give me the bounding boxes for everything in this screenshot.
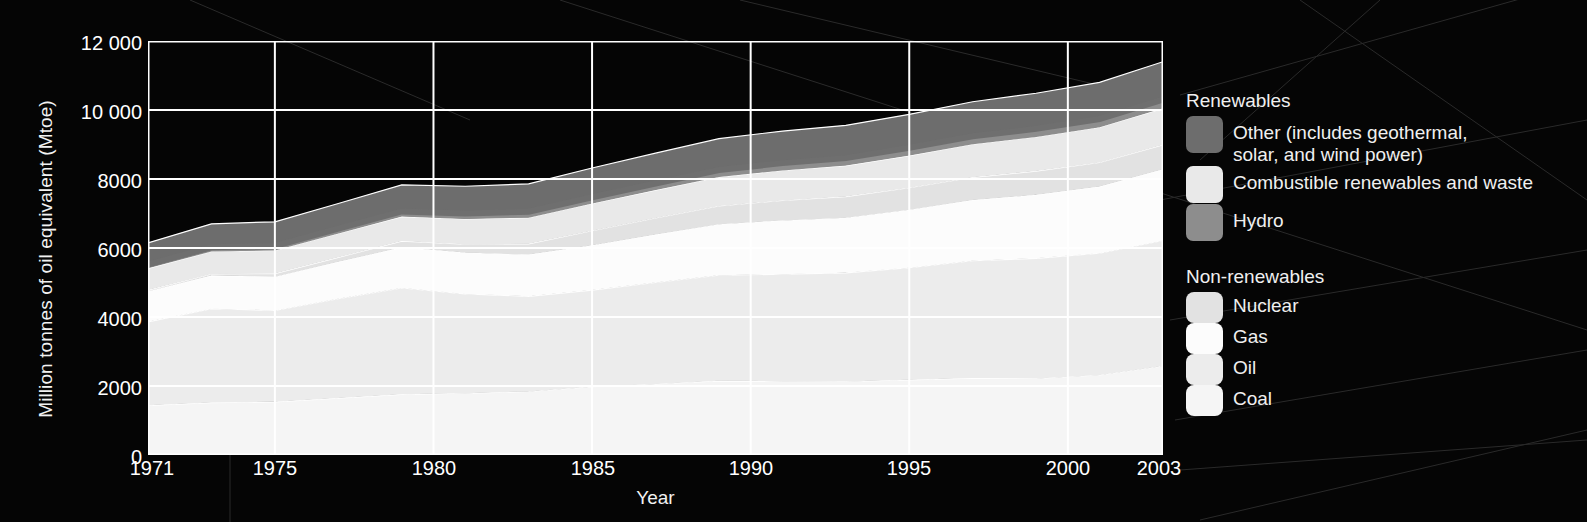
legend-swatch-icon	[1186, 204, 1223, 241]
x-tick-label: 1985	[571, 458, 616, 478]
legend-item-label: Gas	[1233, 323, 1268, 348]
x-tick-label: 1990	[729, 458, 774, 478]
legend-item-label: Hydro	[1233, 204, 1284, 232]
figure-container: Million tonnes of oil equivalent (Mtoe) …	[0, 0, 1587, 522]
legend-item-gas[interactable]: Gas	[1186, 323, 1586, 354]
legend-item-label: Coal	[1233, 385, 1272, 410]
x-tick-label: 1971	[130, 458, 175, 478]
legend: Renewables Other (includes geothermal, s…	[1186, 90, 1586, 416]
x-tick-label: 1975	[253, 458, 298, 478]
y-tick-label: 10 000	[22, 102, 142, 122]
y-tick-label: 4000	[22, 309, 142, 329]
legend-swatch-icon	[1186, 385, 1223, 416]
legend-item-combustible-renewables-and-waste[interactable]: Combustible renewables and waste	[1186, 166, 1586, 204]
legend-swatch-icon	[1186, 323, 1223, 354]
legend-swatch-icon	[1186, 166, 1223, 203]
legend-swatch-icon	[1186, 116, 1223, 153]
x-axis-title: Year	[148, 487, 1163, 509]
x-tick-label: 1980	[412, 458, 457, 478]
x-tick-label: 2003	[1137, 458, 1182, 478]
area-series-group	[148, 62, 1163, 455]
legend-item-label: Other (includes geothermal, solar, and w…	[1233, 116, 1467, 166]
legend-item-label: Oil	[1233, 354, 1256, 379]
y-tick-label: 8000	[22, 171, 142, 191]
legend-swatch-icon	[1186, 354, 1223, 385]
legend-group-title: Non-renewables	[1186, 266, 1586, 288]
y-tick-label: 6000	[22, 240, 142, 260]
y-tick-label: 2000	[22, 378, 142, 398]
legend-group-renewables: Renewables Other (includes geothermal, s…	[1186, 90, 1586, 241]
legend-swatch-icon	[1186, 292, 1223, 323]
legend-group-nonrenewables: Non-renewables Nuclear Gas Oil Coal	[1186, 266, 1586, 416]
legend-item-hydro[interactable]: Hydro	[1186, 204, 1586, 241]
x-tick-label: 2000	[1046, 458, 1091, 478]
plot-area	[148, 41, 1163, 455]
legend-item-nuclear[interactable]: Nuclear	[1186, 292, 1586, 323]
legend-item-label: Combustible renewables and waste	[1233, 166, 1533, 194]
legend-group-title: Renewables	[1186, 90, 1586, 112]
y-tick-label: 0	[22, 447, 142, 467]
y-tick-label: 12 000	[22, 33, 142, 53]
x-tick-label: 1995	[887, 458, 932, 478]
legend-item-other[interactable]: Other (includes geothermal, solar, and w…	[1186, 116, 1586, 166]
legend-item-label: Nuclear	[1233, 292, 1298, 317]
legend-item-coal[interactable]: Coal	[1186, 385, 1586, 416]
legend-item-oil[interactable]: Oil	[1186, 354, 1586, 385]
stacked-area-chart	[148, 41, 1163, 455]
